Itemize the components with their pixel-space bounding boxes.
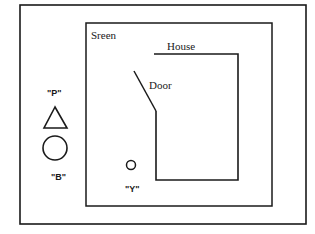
screen-label: Sreen (91, 29, 117, 41)
outer-frame (20, 5, 306, 224)
house-label: House (167, 40, 195, 52)
house-outline (154, 54, 238, 180)
scene-diagram: Sreen House Door "P" "B" "Y" (0, 0, 315, 234)
object-b-label: "B" (51, 172, 66, 182)
triangle-icon (44, 107, 67, 128)
door-label: Door (149, 79, 172, 91)
object-y-label: "Y" (125, 184, 140, 194)
small-circle-icon (127, 161, 136, 170)
object-p-label: "P" (47, 88, 62, 98)
circle-icon (43, 136, 67, 160)
door-line (134, 71, 156, 111)
